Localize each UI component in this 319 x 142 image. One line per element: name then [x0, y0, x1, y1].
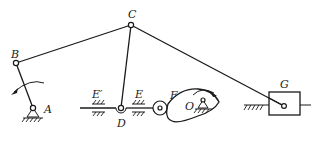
label-b: B — [10, 48, 19, 61]
coupler-bc — [16, 25, 131, 63]
label-f: F — [169, 89, 178, 102]
joint-d — [118, 105, 123, 110]
link-cd — [121, 25, 131, 108]
mechanism-diagram: A B C D E′ E F O G — [0, 0, 319, 142]
label-d: D — [116, 117, 126, 130]
label-e-prime: E′ — [91, 88, 103, 101]
label-g: G — [280, 78, 289, 91]
label-c: C — [128, 8, 137, 21]
label-e: E — [134, 88, 143, 101]
link-cg — [131, 25, 284, 106]
label-o: O — [185, 100, 194, 113]
joint-c — [128, 22, 133, 27]
joint-g — [282, 104, 287, 109]
rotation-arrow-o-icon — [193, 90, 217, 97]
joint-a — [30, 105, 35, 110]
roller-f-pin — [158, 106, 162, 110]
slider-track — [244, 105, 311, 110]
label-a: A — [43, 103, 52, 116]
joint-b — [13, 60, 18, 65]
crank-ab — [16, 63, 33, 108]
